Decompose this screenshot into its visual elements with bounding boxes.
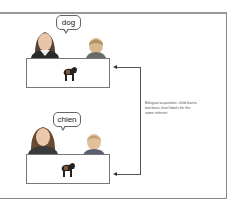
child-listener-top [85, 37, 107, 58]
dog-icon [58, 159, 78, 179]
caption-text: Bilingual acquisition: child learns two … [145, 101, 197, 116]
speech-text-dog: dog [62, 18, 75, 27]
referent-panel-top [26, 58, 110, 88]
speech-text-chien: chien [57, 115, 76, 124]
arrow-left-icon [113, 65, 117, 69]
dog-icon [60, 63, 80, 83]
woman-speaker-top [29, 28, 61, 58]
speech-bubble-top: dog [56, 15, 81, 30]
woman-speaker-bottom [26, 124, 60, 154]
referent-panel-bottom [26, 154, 110, 184]
speech-bubble-bottom: chien [53, 112, 81, 127]
child-listener-bottom [82, 133, 106, 155]
arrow-left-icon [113, 172, 117, 176]
